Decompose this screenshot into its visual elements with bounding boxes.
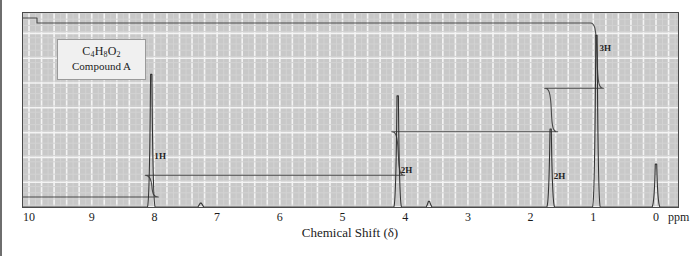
axis-tick-1: 1 — [590, 210, 596, 225]
axis-tick-9: 9 — [89, 210, 95, 225]
axis-tick-6: 6 — [277, 210, 283, 225]
nmr-spectrum-figure: C4H8O2 Compound A 1H2H2H3H 109876543210 … — [0, 0, 700, 256]
axis-tick-4: 4 — [402, 210, 408, 225]
axis-tick-8: 8 — [151, 210, 157, 225]
axis-title: Chemical Shift (δ) — [0, 225, 700, 241]
axis-tick-2: 2 — [528, 210, 534, 225]
x-axis: 109876543210 ppm Chemical Shift (δ) — [0, 0, 700, 256]
axis-unit-label: ppm — [668, 210, 689, 225]
axis-tick-7: 7 — [214, 210, 220, 225]
axis-tick-10: 10 — [23, 210, 35, 225]
axis-tick-0: 0 — [653, 210, 659, 225]
axis-tick-5: 5 — [340, 210, 346, 225]
axis-tick-3: 3 — [465, 210, 471, 225]
